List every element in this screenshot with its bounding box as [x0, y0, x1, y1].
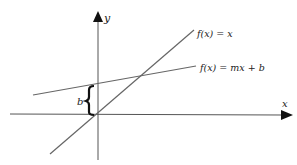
intercept-brace: b [77, 86, 94, 115]
y-axis-arrow-icon [93, 11, 103, 22]
x-axis-arrow-icon [281, 110, 293, 120]
brace-icon [86, 86, 94, 115]
line-linear: f(x) = mx + b [33, 62, 265, 95]
line-identity-label: f(x) = x [196, 28, 233, 39]
line-identity: f(x) = x [50, 28, 233, 154]
y-axis-label: y [103, 12, 111, 25]
intercept-label: b [77, 96, 83, 107]
y-axis: y [93, 11, 111, 160]
x-axis: x [10, 98, 293, 120]
x-axis-label: x [282, 98, 288, 109]
line-linear-label: f(x) = mx + b [199, 62, 265, 73]
graph-canvas: y x f(x) = x f(x) = mx + b b [0, 0, 297, 165]
